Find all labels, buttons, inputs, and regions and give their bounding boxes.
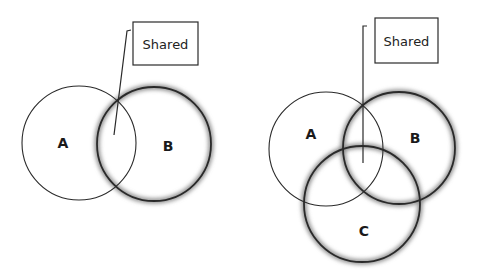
callout-leader-line bbox=[114, 30, 131, 135]
callout-label: Shared bbox=[384, 34, 430, 49]
three-set-venn: ABCShared bbox=[269, 18, 455, 262]
set-circle-a bbox=[269, 92, 383, 206]
callout-label: Shared bbox=[143, 37, 189, 52]
set-label-c: C bbox=[359, 223, 369, 239]
set-label-a: A bbox=[58, 135, 69, 151]
venn-diagrams-canvas: ABSharedABCShared bbox=[0, 0, 477, 279]
set-circle-b bbox=[97, 87, 211, 201]
two-set-venn: ABShared bbox=[22, 22, 211, 201]
set-circle-a bbox=[22, 86, 136, 200]
set-label-b: B bbox=[163, 138, 174, 154]
set-label-a: A bbox=[306, 126, 317, 142]
callout-leader-line bbox=[363, 26, 367, 163]
set-label-b: B bbox=[410, 130, 421, 146]
